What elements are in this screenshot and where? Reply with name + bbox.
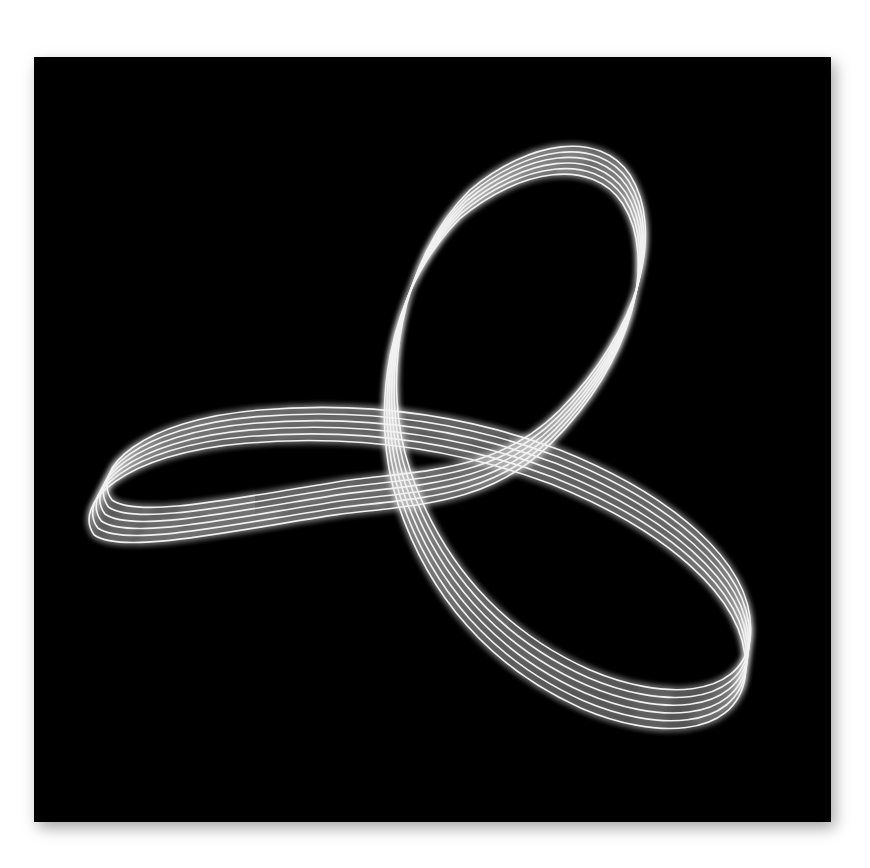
ribbon-strands	[89, 146, 751, 728]
trefoil-ribbon-artwork	[0, 0, 870, 868]
